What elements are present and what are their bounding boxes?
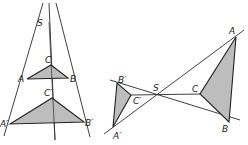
label-b-prime-right: B′	[118, 75, 126, 85]
left-figure: S C A B C′ A′ B′	[0, 3, 93, 140]
label-a: A	[17, 74, 24, 84]
label-c-prime-right: C′	[133, 96, 141, 106]
label-b: B	[70, 74, 76, 84]
label-s-right: S	[153, 83, 159, 93]
label-c-prime: C′	[44, 88, 52, 98]
label-b-right: B	[222, 124, 228, 134]
label-a-prime-right: A′	[112, 131, 121, 141]
label-b-prime: B′	[85, 118, 93, 128]
label-s: S	[37, 18, 43, 28]
triangle-abc	[27, 65, 68, 79]
label-a-prime: A′	[0, 119, 8, 129]
triangle-a-prime-b-prime-c-prime	[10, 98, 84, 124]
label-a-right: A	[228, 26, 235, 36]
right-figure: S A B C B′ C′ A′	[104, 26, 244, 141]
line-c-prime-c	[131, 94, 200, 95]
diagram-canvas: S C A B C′ A′ B′ S A B C B′ C′ A′	[0, 0, 248, 145]
label-c-right: C	[192, 84, 199, 94]
label-c: C	[45, 55, 52, 65]
